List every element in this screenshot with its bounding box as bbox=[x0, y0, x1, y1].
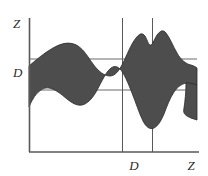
y-axis-level-label: D bbox=[12, 65, 23, 80]
x-axis-end-label: Z bbox=[187, 158, 195, 173]
figure-container: Z D D Z bbox=[0, 0, 208, 176]
band-chart: Z D D Z bbox=[0, 0, 208, 176]
uncertainty-band-tail bbox=[184, 83, 197, 120]
x-axis-tick-label: D bbox=[128, 158, 139, 173]
y-axis-top-label: Z bbox=[13, 16, 21, 31]
